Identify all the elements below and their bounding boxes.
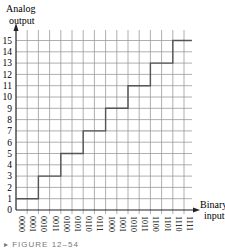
y-tick-label: 6 <box>7 138 12 148</box>
x-tick-label: 0001 <box>28 216 37 232</box>
x-tick-label: 0000 <box>17 216 26 232</box>
y-tick-label: 4 <box>7 160 12 170</box>
x-axis-title-line2: input <box>204 210 225 221</box>
x-tick-label: 1011 <box>140 216 149 232</box>
x-tick-labels: 0000000100100011010001010110011110001001… <box>17 216 194 232</box>
x-tick-label: 1100 <box>151 216 160 232</box>
step-chart: 0123456789101112131415 00000001001000110… <box>0 0 225 240</box>
x-tick-label: 1110 <box>174 216 183 231</box>
y-tick-label: 0 <box>7 205 12 215</box>
figure-caption: ▸ FIGURE 12–54 <box>4 240 79 249</box>
x-axis-title-line1: Binary <box>200 199 225 210</box>
x-axis-arrow-icon <box>193 208 200 213</box>
x-tick-label: 1000 <box>107 216 116 232</box>
y-tick-label: 11 <box>3 81 12 91</box>
y-axis-title-line1: Analog <box>6 3 35 14</box>
x-tick-label: 0100 <box>62 216 71 232</box>
y-tick-label: 1 <box>7 194 12 204</box>
x-tick-label: 0101 <box>73 216 82 232</box>
y-tick-label: 8 <box>7 115 12 125</box>
x-tick-label: 1001 <box>118 216 127 232</box>
x-tick-label: 0110 <box>84 216 93 232</box>
y-tick-labels: 0123456789101112131415 <box>3 36 13 216</box>
y-tick-label: 3 <box>7 171 12 181</box>
y-tick-label: 10 <box>3 92 13 102</box>
y-tick-label: 13 <box>3 58 13 68</box>
x-tick-label: 1010 <box>129 216 138 232</box>
y-tick-label: 14 <box>3 47 13 57</box>
x-tick-label: 1101 <box>163 216 172 232</box>
y-tick-label: 7 <box>7 126 12 136</box>
y-tick-label: 5 <box>7 149 12 159</box>
x-tick-label: 1111 <box>185 216 194 231</box>
y-tick-label: 12 <box>3 70 13 80</box>
x-tick-label: 0011 <box>51 216 60 232</box>
grid-lines <box>16 30 192 214</box>
y-tick-label: 9 <box>7 104 12 114</box>
y-tick-label: 2 <box>7 183 12 193</box>
y-tick-label: 15 <box>3 36 13 46</box>
x-tick-label: 0010 <box>39 216 48 232</box>
x-tick-label: 0111 <box>95 216 104 231</box>
y-axis-title-line2: output <box>9 15 35 26</box>
